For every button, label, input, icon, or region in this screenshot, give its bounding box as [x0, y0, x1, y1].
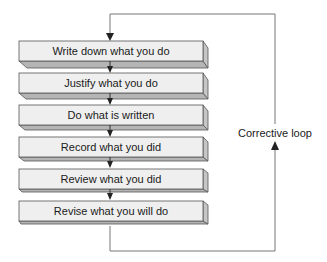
step-label: Record what you did	[61, 141, 161, 153]
flow-arrow-icon	[107, 161, 113, 168]
step-box-3: Do what is written	[19, 105, 208, 130]
step-box-1: Write down what you do	[19, 41, 208, 68]
loop-arrow-down-icon	[106, 33, 114, 41]
step-label: Do what is written	[68, 109, 155, 121]
step-box-4: Record what you did	[19, 137, 208, 161]
flow-arrow-icon	[107, 130, 113, 137]
flow-arrow-icon	[107, 193, 113, 200]
step-box-6: Revise what you will do	[19, 201, 208, 224]
flow-arrow-icon	[107, 66, 113, 73]
step-label: Write down what you do	[52, 45, 169, 57]
flow-arrow-icon	[107, 98, 113, 105]
step-box-2: Justify what you do	[19, 73, 208, 99]
step-label: Justify what you do	[64, 77, 158, 89]
step-box-5: Review what you did	[19, 169, 208, 192]
loop-arrow-up-icon	[271, 141, 279, 150]
step-label: Revise what you will do	[54, 205, 168, 217]
loop-line-lower	[110, 148, 275, 251]
step-label: Review what you did	[61, 173, 162, 185]
diagram-canvas: Corrective loop Write down what you do J…	[0, 0, 327, 262]
loop-label: Corrective loop	[238, 127, 312, 139]
